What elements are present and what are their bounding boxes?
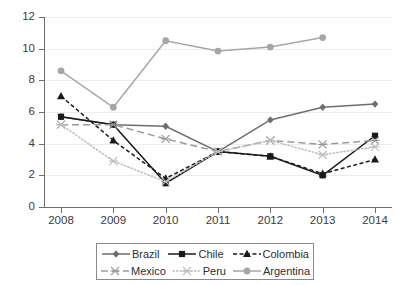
data-point-marker: [109, 136, 117, 143]
data-point-marker: [372, 100, 379, 107]
legend-item-brazil[interactable]: Brazil: [101, 245, 160, 262]
legend-swatch-mexico: [100, 264, 130, 278]
data-point-marker: [319, 104, 326, 111]
legend-swatch-chile: [167, 247, 197, 261]
data-point-marker: [162, 123, 169, 130]
series-brazil: [58, 100, 379, 155]
data-point-marker: [244, 267, 251, 274]
data-point-marker: [318, 151, 327, 159]
legend-row: BrazilChileColombia: [97, 245, 313, 262]
legend-swatch-peru: [172, 264, 202, 278]
data-point-marker: [109, 157, 118, 165]
legend-swatch-brazil: [101, 247, 131, 261]
data-point-marker: [182, 267, 191, 275]
legend-item-chile[interactable]: Chile: [167, 245, 223, 262]
data-point-marker: [370, 143, 379, 151]
data-point-marker: [110, 104, 117, 111]
data-point-marker: [162, 37, 169, 44]
series-line: [61, 104, 375, 151]
legend-label: Peru: [202, 265, 226, 277]
data-point-marker: [113, 250, 120, 257]
data-point-marker: [110, 267, 119, 275]
legend-item-peru[interactable]: Peru: [172, 262, 226, 279]
series-argentina: [58, 34, 326, 110]
series-line: [61, 96, 375, 178]
data-point-marker: [371, 155, 379, 162]
data-point-marker: [58, 114, 64, 120]
data-point-marker: [56, 121, 65, 129]
series-colombia: [57, 92, 379, 182]
series-line: [61, 38, 323, 108]
data-point-marker: [267, 116, 274, 123]
legend-item-colombia[interactable]: Colombia: [232, 245, 309, 262]
legend-swatch-argentina: [232, 264, 262, 278]
line-chart: 024681012 2008200920102011201220132014 B…: [0, 0, 404, 285]
legend-item-argentina[interactable]: Argentina: [232, 262, 310, 279]
chart-legend: BrazilChileColombia MexicoPeruArgentina: [96, 243, 314, 280]
data-point-marker: [318, 140, 327, 148]
legend-label: Chile: [197, 248, 223, 260]
data-point-marker: [161, 135, 170, 143]
legend-row: MexicoPeruArgentina: [97, 262, 313, 279]
legend-label: Argentina: [262, 265, 310, 277]
data-point-marker: [319, 34, 326, 41]
data-point-marker: [57, 92, 65, 99]
data-point-marker: [267, 44, 274, 51]
data-point-marker: [179, 250, 185, 256]
data-point-marker: [58, 67, 65, 74]
data-point-marker: [215, 48, 222, 55]
legend-item-mexico[interactable]: Mexico: [100, 262, 166, 279]
legend-label: Colombia: [262, 248, 309, 260]
legend-swatch-colombia: [232, 247, 262, 261]
legend-label: Mexico: [130, 265, 166, 277]
data-point-marker: [266, 137, 275, 145]
legend-label: Brazil: [131, 248, 160, 260]
